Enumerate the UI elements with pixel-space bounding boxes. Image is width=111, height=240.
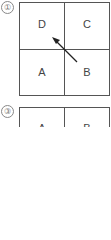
cell-label-a-panel3: A xyxy=(32,122,52,127)
cell-label-b-panel3: B xyxy=(77,122,97,127)
grid-divider-vertical-3 xyxy=(64,107,65,127)
panel-number-3: ③ xyxy=(1,105,14,118)
